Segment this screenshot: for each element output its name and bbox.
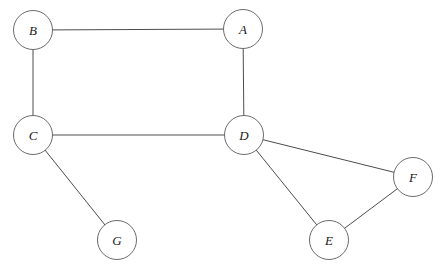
graph-node-a[interactable]: A xyxy=(224,10,263,49)
graph-node-c[interactable]: C xyxy=(14,116,53,155)
graph-node-b[interactable]: B xyxy=(14,11,53,50)
graph-node-g[interactable]: G xyxy=(98,221,137,260)
graph-node-f[interactable]: F xyxy=(394,158,433,197)
graph-node-e[interactable]: E xyxy=(310,221,349,260)
graph-canvas: ABCDEFG xyxy=(0,0,441,272)
graph-node-label-f: F xyxy=(408,170,418,185)
graph-edge-a-d xyxy=(243,49,244,116)
diagram-background xyxy=(0,0,441,272)
graph-node-label-c: C xyxy=(29,128,38,143)
graph-node-label-g: G xyxy=(112,233,122,248)
graph-node-d[interactable]: D xyxy=(225,116,264,155)
graph-node-label-d: D xyxy=(238,128,249,143)
graph-diagram: ABCDEFG xyxy=(0,0,441,272)
graph-node-label-b: B xyxy=(29,23,37,38)
graph-node-label-a: A xyxy=(238,22,247,37)
graph-node-label-e: E xyxy=(324,233,333,248)
